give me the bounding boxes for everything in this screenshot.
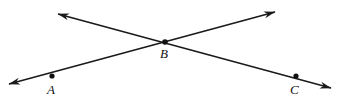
point-dot-a [49,73,54,78]
lines-group [9,12,331,88]
geometry-diagram: A B C [0,0,343,104]
point-dot-b [162,39,168,45]
line-through-b-and-c [58,14,331,88]
point-label-a: A [47,83,55,96]
point-dot-c [293,73,298,78]
point-label-c: C [290,83,299,96]
line-through-a-and-b [9,12,275,84]
point-label-b: B [160,47,168,60]
